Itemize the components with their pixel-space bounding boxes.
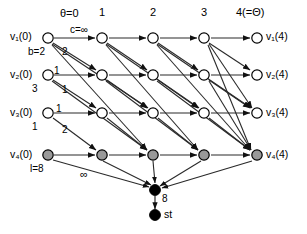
node-v3-t2 (148, 108, 158, 118)
node-v4-t3 (199, 150, 209, 160)
network-graph (0, 0, 307, 234)
node-label-v4-source: v₄(0) (10, 149, 32, 160)
terminal-label-st: st (164, 209, 172, 220)
supply-label: l=8 (30, 164, 44, 174)
node-v3-t3 (199, 108, 209, 118)
node-v4-t1 (97, 150, 107, 160)
column-header-0: θ=0 (60, 8, 79, 19)
node-v3-t0 (43, 108, 53, 118)
node-label-v2-sink: v₂(4) (266, 69, 288, 80)
column-header-3: 3 (201, 7, 207, 18)
edge-label-1c: 1 (56, 104, 62, 114)
edge-label-1a: 1 (54, 66, 60, 76)
transit-label-1: 1 (32, 122, 38, 132)
node-v3-t4 (252, 108, 262, 118)
node-v1-t0 (43, 33, 53, 43)
node-label-v1-source: v₁(0) (10, 31, 32, 42)
b-value-label: b=2 (28, 47, 45, 57)
node-label-v1-sink: v₁(4) (266, 31, 288, 42)
node-label-v3-source: v₃(0) (10, 107, 32, 118)
node-v2-t1 (97, 70, 107, 80)
node-v1-t3 (199, 33, 209, 43)
node-label-v2-source: v₂(0) (10, 69, 32, 80)
transit-arc-edges (52, 43, 252, 150)
node-v4-t0 (43, 150, 53, 160)
node-v1-t2 (148, 33, 158, 43)
diagram-canvas: θ=0 1 2 3 4(=Θ) v₁(0) v₂(0) v₃(0) v₄(0) … (0, 0, 307, 234)
node-v2-t0 (43, 70, 53, 80)
node-terminal-st (150, 210, 161, 221)
node-v2-t3 (199, 70, 209, 80)
transit-label-3: 3 (32, 84, 38, 94)
node-v4-t4 (252, 150, 262, 160)
node-label-v4-sink: v₄(4) (266, 149, 288, 160)
node-v3-t1 (97, 108, 107, 118)
node-label-v3-sink: v₃(4) (266, 107, 288, 118)
column-header-2: 2 (150, 7, 156, 18)
node-v4-t2 (148, 150, 158, 160)
edge-label-1b: 1 (62, 85, 68, 95)
edge-label-2a: 2 (62, 47, 68, 57)
column-header-1: 1 (99, 7, 105, 18)
node-super-sink (150, 185, 161, 196)
capacity-label: c=∞ (70, 25, 88, 35)
column-header-4: 4(=Θ) (236, 7, 264, 18)
edge-label-infinity: ∞ (80, 169, 88, 180)
node-v1-t4 (252, 33, 262, 43)
edge-label-8: 8 (162, 194, 168, 204)
node-v2-t2 (148, 70, 158, 80)
node-v1-t1 (97, 33, 107, 43)
node-v2-t4 (252, 70, 262, 80)
holdover-edges (54, 38, 250, 155)
edge-label-2b: 2 (62, 125, 68, 135)
